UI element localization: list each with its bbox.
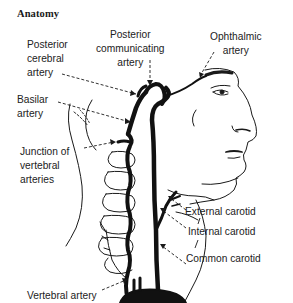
aortic-arch bbox=[120, 290, 186, 303]
leader-junction bbox=[84, 142, 114, 148]
leader-posterior-cerebral bbox=[62, 74, 136, 94]
label-external-carotid: External carotid bbox=[185, 205, 256, 219]
label-ophthalmic-artery: Ophthalmic artery bbox=[210, 30, 262, 58]
label-common-carotid: Common carotid bbox=[186, 252, 261, 266]
neck-outline bbox=[66, 100, 214, 303]
label-posterior-communicating-artery: Posterior communicating artery bbox=[96, 28, 165, 70]
internal-carotid-path bbox=[152, 88, 169, 290]
label-posterior-cerebral-artery: Posterior cerebral artery bbox=[27, 38, 68, 80]
leader-internal-carotid bbox=[162, 210, 186, 228]
basilar-artery-path bbox=[128, 92, 146, 134]
leader-external-carotid bbox=[170, 198, 186, 210]
leader-common-carotid bbox=[162, 246, 186, 264]
leader-vertebral bbox=[102, 280, 126, 290]
label-internal-carotid: Internal carotid bbox=[188, 225, 255, 239]
arteries bbox=[118, 76, 206, 303]
label-junction-of-vertebral-arteries: Junction of vertebral arteries bbox=[20, 145, 69, 187]
ophthalmic-artery-path bbox=[166, 76, 206, 96]
label-vertebral-artery: Vertebral artery bbox=[27, 289, 97, 303]
face-profile bbox=[190, 68, 257, 204]
external-carotid-path bbox=[156, 192, 176, 230]
section-title: Anatomy bbox=[17, 8, 59, 19]
label-basilar-artery: Basilar artery bbox=[17, 93, 48, 121]
